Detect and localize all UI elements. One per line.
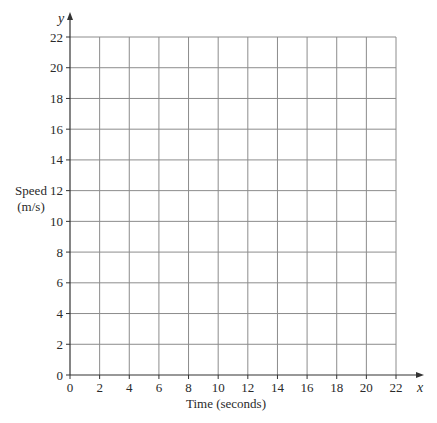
y-tick-label: 20: [50, 60, 63, 75]
x-tick-labels: 0246810121416182022: [67, 380, 403, 395]
x-axis-arrow-icon: [416, 372, 424, 378]
x-axis-title: Time (seconds): [186, 396, 266, 411]
x-tick-label: 4: [126, 380, 133, 395]
y-tick-label: 12: [50, 183, 63, 198]
y-tick-label: 4: [57, 306, 64, 321]
y-axis-variable: y: [56, 11, 65, 26]
y-tick-label: 10: [50, 214, 63, 229]
speed-time-grid-chart: 0246810121416182022 0246810121416182022 …: [0, 0, 437, 423]
x-tick-label: 22: [390, 380, 403, 395]
x-tick-label: 20: [360, 380, 373, 395]
y-tick-label: 14: [50, 152, 64, 167]
x-tick-label: 12: [241, 380, 254, 395]
grid-lines: [70, 37, 396, 375]
x-axis-variable: x: [416, 380, 424, 395]
x-tick-label: 10: [212, 380, 225, 395]
y-tick-label: 18: [50, 91, 63, 106]
x-tick-label: 18: [330, 380, 343, 395]
x-tick-label: 8: [185, 380, 192, 395]
y-axis-arrow-icon: [67, 12, 73, 20]
x-tick-label: 2: [96, 380, 103, 395]
y-tick-labels: 0246810121416182022: [50, 30, 64, 383]
y-axis-title-line1: Speed: [15, 183, 47, 198]
x-tick-label: 6: [156, 380, 163, 395]
y-tick-label: 8: [57, 245, 64, 260]
axes: [66, 12, 424, 379]
x-tick-label: 0: [67, 380, 74, 395]
x-tick-label: 14: [271, 380, 285, 395]
y-tick-label: 2: [57, 337, 64, 352]
y-tick-label: 22: [50, 30, 63, 45]
y-tick-label: 16: [50, 122, 64, 137]
x-tick-label: 16: [301, 380, 315, 395]
y-axis-title-line2: (m/s): [17, 199, 44, 214]
y-tick-label: 0: [57, 368, 64, 383]
y-tick-label: 6: [57, 275, 64, 290]
